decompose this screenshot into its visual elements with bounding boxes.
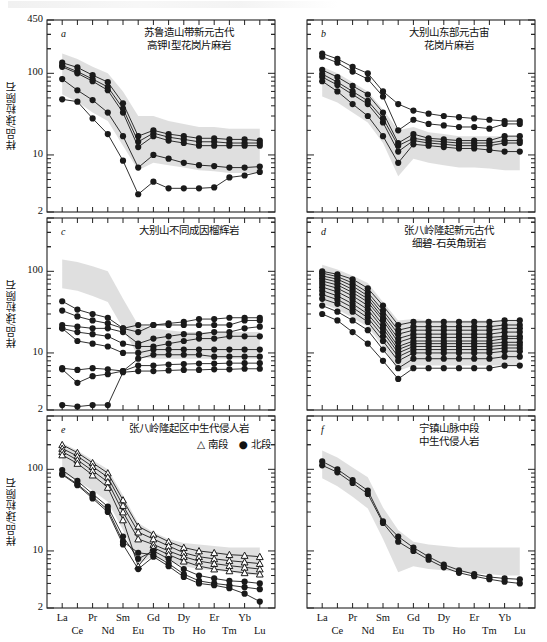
panel-letter-b: b [321,28,326,39]
x-tick-label-tm: Tm [216,625,242,636]
ree-chondrite-figure: 450100102样品/球粒陨石100102样品/球粒陨石100102样品/球粒… [0,0,547,642]
data-point-circle [166,352,172,358]
data-point-circle [486,365,492,371]
data-point-circle [456,356,462,362]
data-point-circle [517,121,523,127]
data-point-circle [181,352,187,358]
data-point-circle [426,365,432,371]
legend-symbol: ● [238,438,247,450]
data-point-circle [135,164,141,170]
data-point-circle [226,585,232,591]
data-point-circle [502,148,508,154]
data-point-circle [226,174,232,180]
data-point-circle [365,76,371,82]
data-point-circle [410,107,416,113]
data-point-circle [135,356,141,362]
data-point-circle [410,365,416,371]
data-point-circle [395,101,401,107]
data-point-circle [105,371,111,377]
data-point-circle [196,367,202,373]
data-point-circle [365,319,371,325]
data-point-circle [135,368,141,374]
data-point-circle [410,350,416,356]
data-point-circle [334,469,340,475]
data-point-circle [257,580,263,586]
data-point-circle [120,350,126,356]
data-point-circle [166,185,172,191]
data-point-circle [226,366,232,372]
data-point-circle [350,309,356,315]
data-point-circle [90,365,96,371]
data-point-circle [441,350,447,356]
x-tick-label-tb: Tb [416,625,442,636]
data-point-circle [395,365,401,371]
data-point-circle [365,101,371,107]
data-point-circle [105,315,111,321]
data-point-circle [257,354,263,360]
data-point-circle [517,362,523,368]
data-point-circle [59,76,65,82]
x-tick-label-nd: Nd [95,625,121,636]
data-point-circle [150,362,156,368]
data-point-circle [166,333,172,339]
data-point-circle [135,191,141,197]
data-point-circle [211,354,217,360]
data-point-circle [90,402,96,408]
data-point-circle [196,162,202,168]
data-point-circle [365,113,371,119]
data-point-circle [211,143,217,149]
data-point-circle [181,574,187,580]
x-tick-label-yb: Yb [492,612,518,623]
x-tick-label-ce: Ce [324,625,350,636]
data-point-circle [166,361,172,367]
data-point-circle [502,354,508,360]
data-point-circle [59,366,65,372]
data-point-circle [257,586,263,592]
data-point-circle [74,404,80,410]
data-point-circle [334,301,340,307]
panel-letter-c: c [61,226,65,237]
data-point-circle [517,348,523,354]
data-point-circle [135,566,141,572]
x-tick-label-ho: Ho [446,625,472,636]
data-point-circle [135,550,141,556]
data-point-circle [59,298,65,304]
data-point-circle [456,114,462,120]
x-tick-label-pr: Pr [80,612,106,623]
data-point-circle [426,557,432,563]
data-point-circle [319,303,325,309]
x-tick-label-gd: Gd [140,612,166,623]
data-point-circle [74,482,80,488]
x-tick-label-pr: Pr [340,612,366,623]
data-point-circle [59,472,65,478]
data-point-circle [257,346,263,352]
data-point-circle [211,582,217,588]
data-point-circle [242,366,248,372]
data-point-circle [196,580,202,586]
data-point-circle [395,160,401,166]
data-point-circle [105,110,111,116]
data-point-circle [365,327,371,333]
data-point-circle [196,322,202,328]
data-point-circle [426,111,432,117]
data-point-circle [380,358,386,364]
data-point-circle [211,346,217,352]
data-point-circle [90,495,96,501]
data-point-circle [350,83,356,89]
panel-title-f: 宁镇山脉中段中生代侵人岩 [369,422,529,448]
data-point-circle [59,325,65,331]
data-point-circle [105,343,111,349]
data-point-circle [441,365,447,371]
data-point-circle [441,144,447,150]
data-point-circle [410,356,416,362]
data-point-circle [319,78,325,84]
data-point-circle [166,156,172,162]
data-point-circle [211,335,217,341]
data-point-circle [211,163,217,169]
data-point-circle [502,348,508,354]
panel-letter-e: e [61,424,65,435]
data-point-circle [226,354,232,360]
data-point-circle [319,311,325,317]
x-tick-label-eu: Eu [125,625,151,636]
data-point-circle [456,145,462,151]
